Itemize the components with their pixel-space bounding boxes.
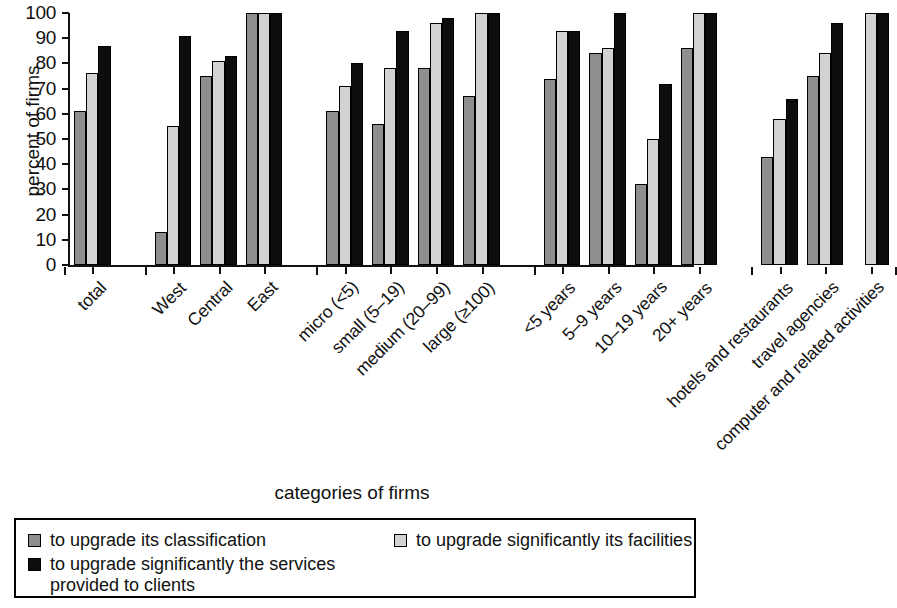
y-tick-label-40: 40	[10, 154, 56, 173]
plot-area	[68, 13, 696, 265]
x-tick-1	[173, 267, 175, 274]
bar	[396, 31, 408, 265]
legend-label-facilities: to upgrade significantly its facilities	[416, 530, 692, 551]
bar	[589, 53, 601, 265]
bar	[74, 111, 86, 265]
x-axis-title: categories of firms	[0, 482, 704, 504]
legend-item-services: to upgrade significantly the services pr…	[28, 554, 335, 596]
bar	[179, 36, 191, 265]
chart-legend: to upgrade its classification to upgrade…	[14, 518, 696, 598]
bar	[418, 68, 430, 265]
bar	[819, 53, 831, 265]
bar	[693, 13, 705, 265]
bar	[372, 124, 384, 265]
bar	[544, 79, 556, 265]
y-tick-label-50: 50	[10, 129, 56, 148]
bar	[442, 18, 454, 265]
x-tick-3	[264, 267, 266, 274]
x-tick-5	[390, 267, 392, 274]
y-tick-label-30: 30	[10, 179, 56, 198]
bar	[225, 56, 237, 265]
x-group-tick-2	[316, 267, 318, 275]
bar	[270, 13, 282, 265]
bar	[475, 13, 487, 265]
y-tick-label-70: 70	[10, 79, 56, 98]
y-tick-label-20: 20	[10, 205, 56, 224]
y-tick-label-80: 80	[10, 53, 56, 72]
bar	[807, 76, 819, 265]
y-tick-label-100: 100	[10, 3, 56, 22]
legend-swatch-classification	[28, 534, 41, 547]
bar	[98, 46, 110, 265]
x-group-tick-4	[751, 267, 753, 275]
bar	[786, 99, 798, 265]
bar	[384, 68, 396, 265]
bar	[614, 13, 626, 265]
bar	[556, 31, 568, 265]
bar	[877, 13, 889, 265]
bar	[773, 119, 785, 265]
legend-label-classification: to upgrade its classification	[50, 530, 266, 551]
x-category-label: East	[244, 278, 281, 315]
y-tick-label-0: 0	[10, 255, 56, 274]
bar	[339, 86, 351, 265]
x-tick-2	[219, 267, 221, 274]
bar	[258, 13, 270, 265]
x-tick-12	[780, 267, 782, 274]
bar	[635, 184, 647, 265]
bar	[351, 63, 363, 265]
bar	[430, 23, 442, 265]
legend-item-facilities: to upgrade significantly its facilities	[394, 530, 692, 551]
legend-swatch-facilities	[394, 534, 407, 547]
bar	[831, 23, 843, 265]
bar	[568, 31, 580, 265]
bar	[463, 96, 475, 265]
x-tick-4	[345, 267, 347, 274]
y-tick-label-10: 10	[10, 230, 56, 249]
x-category-label: total	[74, 278, 109, 313]
bar	[167, 126, 179, 265]
bar	[681, 48, 693, 265]
bar	[647, 139, 659, 265]
x-group-tick-3	[534, 267, 536, 275]
bar	[326, 111, 338, 265]
x-tick-13	[825, 267, 827, 274]
legend-item-classification: to upgrade its classification	[28, 530, 266, 551]
x-tick-8	[562, 267, 564, 274]
x-category-label: West	[149, 278, 189, 318]
x-tick-14	[871, 267, 873, 274]
bar	[705, 13, 717, 265]
legend-label-services: to upgrade significantly the services pr…	[50, 554, 335, 596]
bar	[488, 13, 500, 265]
x-group-tick-1	[145, 267, 147, 275]
y-tick-label-60: 60	[10, 104, 56, 123]
x-tick-7	[482, 267, 484, 274]
bar	[602, 48, 614, 265]
y-tick-label-90: 90	[10, 28, 56, 47]
bar	[659, 84, 671, 265]
x-group-tick-0	[64, 267, 66, 275]
bar	[212, 61, 224, 265]
bar	[155, 232, 167, 265]
bar	[246, 13, 258, 265]
x-tick-0	[92, 267, 94, 274]
x-tick-10	[653, 267, 655, 274]
bar	[865, 13, 877, 265]
legend-swatch-services	[28, 558, 41, 571]
x-axis-line	[68, 265, 694, 267]
x-category-label: Central	[184, 278, 236, 330]
bar	[200, 76, 212, 265]
x-tick-9	[608, 267, 610, 274]
bar	[86, 73, 98, 265]
x-tick-6	[436, 267, 438, 274]
bar	[761, 157, 773, 265]
x-tick-11	[699, 267, 701, 274]
